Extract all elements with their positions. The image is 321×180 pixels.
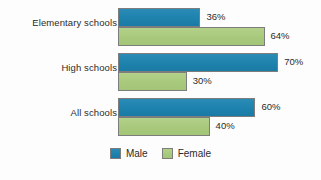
- bar-group: High schools 70% 30%: [0, 53, 321, 91]
- legend-label-female: Female: [178, 148, 211, 159]
- bar-male[interactable]: [118, 98, 255, 117]
- bar-group: Elementary schools 36% 64%: [0, 8, 321, 46]
- bar-value-label: 70%: [284, 56, 303, 67]
- bar-chart: Elementary schools 36% 64% High schools …: [0, 0, 321, 180]
- bar-value-label: 60%: [261, 101, 280, 112]
- male-swatch-icon: [110, 148, 121, 159]
- bar-value-label: 64%: [271, 30, 290, 41]
- bar-female[interactable]: [118, 117, 210, 136]
- legend-item-male[interactable]: Male: [110, 148, 148, 159]
- legend-label-male: Male: [126, 148, 148, 159]
- chart-legend: Male Female: [0, 148, 321, 159]
- bar-value-label: 30%: [193, 75, 212, 86]
- bar-value-label: 40%: [216, 120, 235, 131]
- bar-female[interactable]: [118, 27, 265, 46]
- legend-item-female[interactable]: Female: [162, 148, 211, 159]
- bar-female[interactable]: [118, 72, 187, 91]
- plot-area: Elementary schools 36% 64% High schools …: [0, 0, 321, 145]
- bar-value-label: 36%: [206, 11, 225, 22]
- category-label: All schools: [2, 107, 117, 118]
- bar-group: All schools 60% 40%: [0, 98, 321, 136]
- female-swatch-icon: [162, 148, 173, 159]
- category-label: Elementary schools: [2, 17, 117, 28]
- category-label: High schools: [2, 62, 117, 73]
- bar-male[interactable]: [118, 53, 278, 72]
- bar-male[interactable]: [118, 8, 200, 27]
